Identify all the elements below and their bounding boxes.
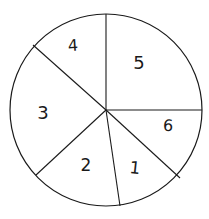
pie-chart-svg	[0, 0, 209, 219]
sector-label-6: 6	[162, 118, 173, 135]
sector-label-3: 3	[37, 104, 48, 122]
pie-chart-figure: 1 2 3 4 5 6	[0, 0, 209, 219]
sector-label-1: 1	[129, 159, 142, 177]
sector-label-4: 4	[67, 38, 78, 55]
sector-label-5: 5	[133, 54, 144, 72]
sector-label-2: 2	[81, 157, 92, 174]
